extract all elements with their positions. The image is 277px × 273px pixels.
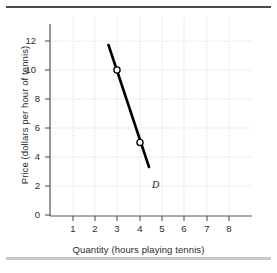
bottom-divider-rule bbox=[6, 257, 271, 260]
y-axis-title: Price (dollars per hour of tennis) bbox=[19, 46, 30, 185]
top-divider-rule bbox=[6, 6, 271, 8]
x-tick-label-2: 2 bbox=[87, 223, 103, 234]
x-axis-ticks bbox=[73, 216, 229, 221]
data-point-marker bbox=[114, 67, 120, 73]
y-tick-label-0: 0 bbox=[24, 209, 40, 220]
data-point-marker bbox=[137, 139, 143, 145]
x-tick-label-5: 5 bbox=[154, 223, 170, 234]
demand-curve-line bbox=[109, 45, 150, 167]
x-tick-label-4: 4 bbox=[132, 223, 148, 234]
demand-curve-figure: 0 2 4 6 8 10 12 1 2 3 4 5 6 7 8 D Quanti… bbox=[0, 10, 277, 260]
horizontal-gridlines bbox=[50, 41, 252, 186]
y-axis-ticks bbox=[45, 41, 50, 215]
x-tick-label-7: 7 bbox=[199, 223, 215, 234]
x-tick-label-8: 8 bbox=[221, 223, 237, 234]
x-tick-label-1: 1 bbox=[65, 223, 81, 234]
vertical-gridlines bbox=[73, 18, 229, 216]
x-tick-label-3: 3 bbox=[109, 223, 125, 234]
x-tick-label-6: 6 bbox=[176, 223, 192, 234]
demand-curve-label: D bbox=[152, 179, 159, 190]
y-axis-title-wrapper: Price (dollars per hour of tennis) bbox=[14, 20, 32, 210]
x-axis-title: Quantity (hours playing tennis) bbox=[0, 244, 277, 255]
